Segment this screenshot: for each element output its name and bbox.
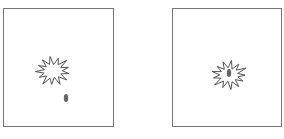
panel-right [172, 8, 282, 127]
oval-shape [227, 69, 231, 77]
panel-left [3, 8, 114, 127]
oval-shape [64, 94, 68, 102]
starburst-shape [35, 57, 68, 85]
panel-right-canvas [173, 9, 283, 128]
panel-left-canvas [4, 9, 115, 128]
